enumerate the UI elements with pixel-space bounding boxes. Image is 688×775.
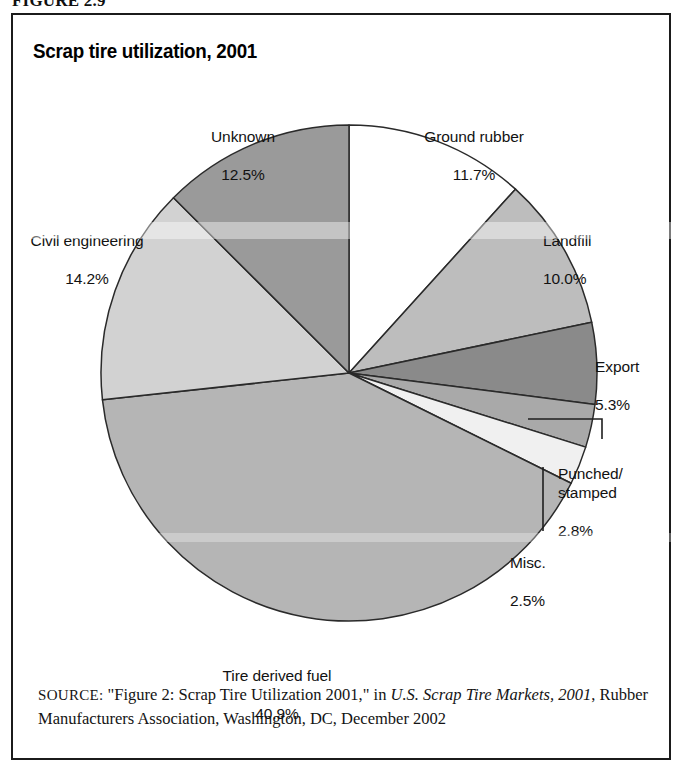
source-kicker: SOURCE: [38,687,103,703]
slice-label-punched-stamped-name: Punched/ stamped [558,464,674,502]
slice-label-civil-engineering-name: Civil engineering [23,231,151,250]
figure-panel: Scrap tire utilization, 2001 Unknown 12.… [11,13,671,760]
slice-label-civil-engineering: Civil engineering 14.2% [23,212,151,307]
slice-label-export: Export 5.3% [595,338,687,433]
slice-label-ground-rubber-value: 11.7% [391,165,557,184]
slice-label-export-value: 5.3% [595,395,687,414]
slice-label-landfill-value: 10.0% [543,269,661,288]
slice-label-ground-rubber-name: Ground rubber [391,127,557,146]
slice-label-misc-value: 2.5% [510,591,606,610]
source-text-before: "Figure 2: Scrap Tire Utilization 2001,"… [103,685,390,704]
figure-caption: FIGURE 2.9 [12,0,106,11]
slice-label-civil-engineering-value: 14.2% [23,269,151,288]
slice-label-misc-name: Misc. [510,553,606,572]
slice-label-ground-rubber: Ground rubber 11.7% [391,108,557,203]
slice-label-misc: Misc. 2.5% [510,534,606,629]
slice-label-unknown: Unknown 12.5% [175,108,311,203]
slice-label-unknown-value: 12.5% [175,165,311,184]
source-note: SOURCE: "Figure 2: Scrap Tire Utilizatio… [38,683,650,731]
slice-label-export-name: Export [595,357,687,376]
source-italic-title: U.S. Scrap Tire Markets, 2001 [391,685,592,704]
slice-label-landfill-name: Landfill [543,231,661,250]
slice-label-landfill: Landfill 10.0% [543,212,661,307]
slice-label-unknown-name: Unknown [175,127,311,146]
